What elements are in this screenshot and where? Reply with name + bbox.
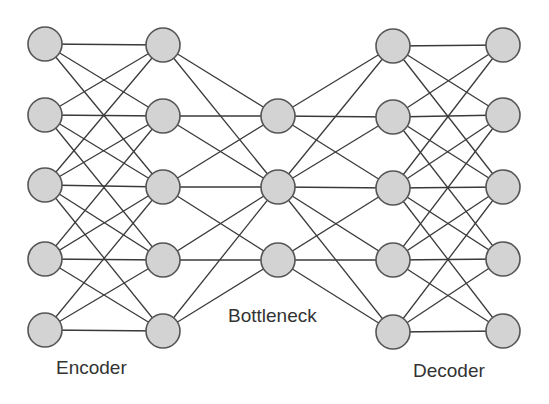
input-node [28, 313, 62, 347]
encoder-hidden-node [146, 243, 180, 277]
encoder-hidden-node [146, 99, 180, 133]
connection-edge [163, 45, 278, 116]
connection-edge [278, 46, 393, 116]
output-node [486, 28, 520, 62]
encoder-hidden-node [146, 314, 180, 348]
decoder-hidden-node [376, 100, 410, 134]
input-node [28, 27, 62, 61]
input-node [28, 98, 62, 132]
encoder-hidden-node [146, 28, 180, 62]
output-node [486, 242, 520, 276]
output-node [486, 170, 520, 204]
network-graph [0, 0, 549, 404]
bottleneck-node [261, 243, 295, 277]
encoder-label: Encoder [56, 358, 127, 377]
bottleneck-label: Bottleneck [228, 306, 317, 325]
output-node [486, 98, 520, 132]
bottleneck-node [261, 170, 295, 204]
output-node [486, 314, 520, 348]
bottleneck-node [261, 99, 295, 133]
decoder-hidden-node [376, 315, 410, 349]
autoencoder-diagram: Encoder Bottleneck Decoder [0, 0, 549, 404]
decoder-hidden-node [376, 171, 410, 205]
decoder-hidden-node [376, 243, 410, 277]
input-node [28, 168, 62, 202]
encoder-hidden-node [146, 170, 180, 204]
decoder-hidden-node [376, 29, 410, 63]
input-node [28, 242, 62, 276]
decoder-label: Decoder [413, 361, 485, 380]
